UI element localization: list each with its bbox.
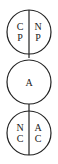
bottom-right-line2: C (33, 134, 43, 144)
top-left-line1: C (15, 22, 25, 32)
top-right-line2: P (33, 33, 43, 43)
top-right-line1: N (33, 22, 43, 32)
middle-label: A (24, 78, 34, 88)
bottom-left-line2: C (15, 134, 25, 144)
top-left-line2: P (15, 33, 25, 43)
bottom-right-line1: A (33, 123, 43, 133)
bottom-left-line1: N (15, 123, 25, 133)
